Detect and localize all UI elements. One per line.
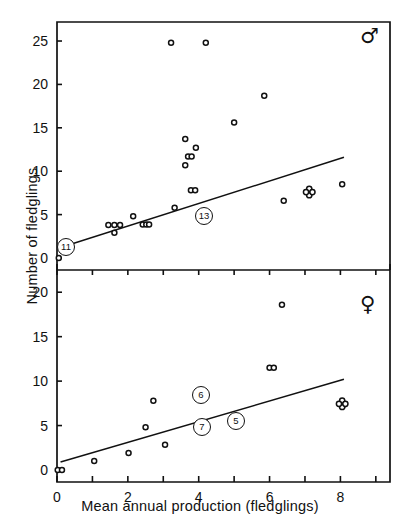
male-symbol-icon: ♂: [360, 26, 379, 47]
data-point: [151, 398, 156, 403]
sample-size-annotation: 5: [227, 412, 245, 430]
data-point: [163, 442, 168, 447]
data-point: [147, 222, 152, 227]
y-tick-label: 10: [14, 164, 48, 178]
top-panel-plot: [0, 0, 400, 275]
y-tick-label: 20: [14, 77, 48, 91]
y-tick-label: 10: [14, 374, 48, 388]
overlap-data-point: [343, 401, 348, 406]
data-point: [183, 163, 188, 168]
y-tick-label: 0: [14, 463, 48, 477]
overlap-data-point: [336, 401, 341, 406]
y-tick-label: 25: [14, 34, 48, 48]
data-point: [112, 230, 117, 235]
sample-size-annotation: 13: [195, 207, 213, 225]
data-point: [92, 459, 97, 464]
data-point: [172, 205, 177, 210]
y-tick-label: 20: [14, 285, 48, 299]
data-point: [59, 468, 64, 473]
data-point: [118, 223, 123, 228]
y-tick-label: 15: [14, 121, 48, 135]
data-point: [189, 154, 194, 159]
x-tick-label: 4: [184, 490, 214, 504]
y-tick-label: 5: [14, 208, 48, 222]
y-tick-label: 5: [14, 419, 48, 433]
data-point: [106, 223, 111, 228]
female-symbol-icon: ♀: [360, 294, 375, 315]
figure-scatter-fledglings: Number of fledglings ♂ ♀ Mean annual pro…: [0, 0, 400, 527]
data-point: [193, 145, 198, 150]
y-tick-label: 0: [14, 251, 48, 265]
sample-size-annotation: 7: [193, 418, 211, 436]
sample-size-annotation: 6: [192, 386, 210, 404]
data-point: [271, 365, 276, 370]
data-point: [281, 198, 286, 203]
overlap-data-point: [310, 189, 315, 194]
data-point: [143, 425, 148, 430]
data-point: [126, 451, 131, 456]
x-tick-label: 0: [42, 490, 72, 504]
data-point: [131, 214, 136, 219]
data-point: [232, 120, 237, 125]
x-tick-label: 6: [255, 490, 285, 504]
data-point: [193, 188, 198, 193]
data-point: [112, 223, 117, 228]
x-tick-label: 8: [325, 490, 355, 504]
data-point: [203, 40, 208, 45]
y-tick-label: 15: [14, 330, 48, 344]
x-tick-label: 2: [113, 490, 143, 504]
data-point: [279, 302, 284, 307]
overlap-data-point: [303, 189, 308, 194]
data-point: [56, 256, 61, 261]
data-point: [183, 137, 188, 142]
data-point: [340, 182, 345, 187]
sample-size-annotation: 11: [57, 238, 75, 256]
data-point: [262, 93, 267, 98]
data-point: [169, 40, 174, 45]
